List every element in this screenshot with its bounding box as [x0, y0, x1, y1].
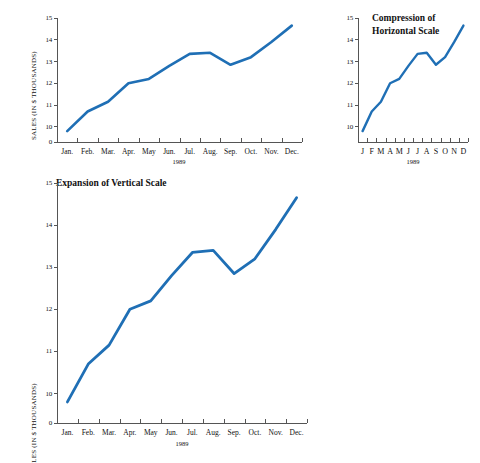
x-tick-label: Mar. [101, 147, 115, 156]
x-tick-label: Aug. [206, 428, 221, 437]
x-tick-mark [468, 138, 469, 142]
x-axis-line [57, 142, 302, 143]
x-tick-label: M [396, 147, 403, 156]
x-tick-label: Sep. [224, 147, 237, 156]
x-tick-label: J [407, 147, 410, 156]
series-line-expanded [57, 183, 307, 423]
x-tick-label: Jul. [184, 147, 195, 156]
y-tick-label: 10 [45, 123, 52, 131]
x-tick-mark [413, 138, 414, 142]
x-tick-mark [265, 419, 266, 423]
x-tick-label: N [451, 147, 457, 156]
plot-area: 1514131211100Jan.Feb.Mar.Apr.MayJun.Jul.… [57, 18, 302, 142]
x-axis-title: 1989 [407, 158, 420, 165]
x-tick-mark [302, 138, 303, 142]
x-tick-label: Nov. [264, 147, 278, 156]
chart-baseline: SALES (IN $ THOUSANDS) 1514131211100Jan.… [0, 0, 320, 170]
x-tick-mark [78, 419, 79, 423]
y-tick-mark [54, 267, 58, 268]
x-axis-line [57, 423, 307, 424]
y-tick-label: 10 [45, 390, 52, 398]
x-tick-mark [77, 138, 78, 142]
x-tick-label: Dec. [290, 428, 304, 437]
x-tick-mark [57, 138, 58, 142]
x-tick-label: Jun. [165, 428, 177, 437]
y-tick-mark [355, 105, 359, 106]
x-tick-mark [358, 138, 359, 142]
y-tick-mark [355, 39, 359, 40]
y-tick-mark [54, 225, 58, 226]
x-tick-mark [367, 138, 368, 142]
y-tick-mark [54, 39, 58, 40]
x-tick-label: A [387, 147, 393, 156]
y-tick-label: 12 [45, 305, 52, 313]
y-tick-mark [355, 18, 359, 19]
y-tick-mark [355, 61, 359, 62]
y-tick-label: 12 [346, 79, 353, 87]
x-tick-label: D [461, 147, 467, 156]
y-tick-mark [54, 61, 58, 62]
x-tick-label: Nov. [269, 428, 283, 437]
y-tick-label: 13 [45, 263, 52, 271]
x-tick-label: Feb. [82, 428, 95, 437]
y-tick-label: 12 [45, 79, 52, 87]
x-tick-label: Oct. [245, 147, 258, 156]
x-tick-mark [139, 138, 140, 142]
chart-compressed-horizontal: SALES (IN $ THOUSANDS) Compression of Ho… [320, 0, 480, 178]
x-tick-mark [161, 419, 162, 423]
x-tick-mark [376, 138, 377, 142]
y-tick-mark [54, 183, 58, 184]
y-tick-label: 15 [45, 14, 52, 22]
x-tick-mark [118, 138, 119, 142]
x-tick-mark [241, 138, 242, 142]
y-tick-mark [54, 309, 58, 310]
y-tick-label: 11 [46, 101, 52, 109]
y-tick-mark [54, 351, 58, 352]
y-axis-title: SALES (IN $ THOUSANDS) [30, 51, 38, 140]
y-tick-label: 15 [45, 179, 52, 187]
x-tick-label: O [442, 147, 448, 156]
x-tick-label: Jan. [61, 147, 73, 156]
x-tick-label: Apr. [123, 428, 136, 437]
x-tick-label: Jan. [61, 428, 73, 437]
x-tick-label: Dec. [285, 147, 299, 156]
x-tick-mark [431, 138, 432, 142]
y-tick-mark [54, 18, 58, 19]
x-tick-mark [224, 419, 225, 423]
x-tick-mark [140, 419, 141, 423]
x-tick-label: Jul. [187, 428, 198, 437]
x-axis-line [358, 142, 468, 143]
x-tick-mark [459, 138, 460, 142]
x-axis-title: 1989 [173, 158, 186, 165]
x-tick-mark [404, 138, 405, 142]
x-tick-mark [386, 138, 387, 142]
y-tick-label: 13 [45, 58, 52, 66]
x-tick-mark [159, 138, 160, 142]
x-tick-mark [180, 138, 181, 142]
series-line-compressed [358, 18, 468, 142]
x-tick-mark [282, 138, 283, 142]
y-tick-mark [54, 393, 58, 394]
y-tick-mark [54, 105, 58, 106]
x-tick-mark [450, 138, 451, 142]
x-tick-mark [120, 419, 121, 423]
y-tick-label: 0 [49, 419, 52, 427]
x-tick-label: Feb. [81, 147, 94, 156]
x-tick-mark [98, 138, 99, 142]
x-tick-mark [395, 138, 396, 142]
x-tick-label: F [370, 147, 374, 156]
y-tick-label: 13 [346, 58, 353, 66]
x-tick-mark [57, 419, 58, 423]
y-tick-mark [54, 83, 58, 84]
y-tick-label: 0 [49, 138, 52, 146]
x-tick-label: S [434, 147, 438, 156]
x-tick-mark [286, 419, 287, 423]
y-tick-label: 14 [45, 36, 52, 44]
y-tick-label: 14 [45, 221, 52, 229]
x-tick-label: May [142, 147, 156, 156]
x-axis-title: 1989 [176, 440, 189, 447]
x-tick-label: Oct. [249, 428, 262, 437]
x-tick-label: J [361, 147, 364, 156]
x-tick-mark [200, 138, 201, 142]
x-tick-mark [307, 419, 308, 423]
